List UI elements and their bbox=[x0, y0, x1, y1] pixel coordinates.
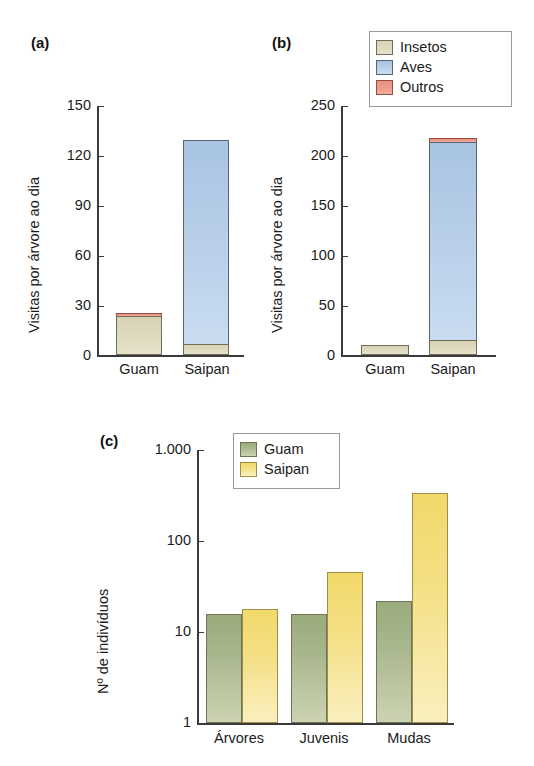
panel-a-x-axis-line bbox=[97, 355, 244, 357]
panel-a-ytick-label-60: 60 bbox=[38, 247, 91, 263]
panel-c-xtick-label-arvores: Árvores bbox=[196, 730, 282, 746]
panel-b-letter: (b) bbox=[272, 34, 291, 51]
legend-islands: Guam Saipan bbox=[233, 433, 340, 489]
panel-c-ytick-label-10: 10 bbox=[116, 623, 191, 639]
panel-a-tick-30 bbox=[98, 306, 104, 307]
legend-item-guam: Guam bbox=[240, 439, 331, 459]
panel-a-tick-120 bbox=[98, 156, 104, 157]
panel-b-ytick-label-100: 100 bbox=[280, 247, 335, 263]
legend-swatch-saipan-icon bbox=[240, 462, 257, 477]
legend-label-saipan: Saipan bbox=[264, 462, 309, 477]
panel-b-x-axis-line bbox=[341, 355, 496, 357]
legend-item-outros: Outros bbox=[376, 77, 503, 97]
panel-b-tick-50 bbox=[342, 306, 348, 307]
panel-c-bar-arvores-guam bbox=[206, 614, 242, 723]
panel-c-ytick-label-1: 1 bbox=[116, 714, 191, 730]
panel-b-bar-guam-segment-insetos bbox=[361, 345, 409, 355]
panel-a-xtick-label-saipan: Saipan bbox=[170, 361, 244, 377]
panel-b-xtick-label-guam: Guam bbox=[350, 361, 420, 377]
panel-a-ytick-label-90: 90 bbox=[38, 197, 91, 213]
legend-swatch-outros-icon bbox=[376, 80, 393, 95]
panel-b-bar-guam bbox=[361, 345, 409, 355]
panel-c: (c) Nº de indivíduos 1.000 100 10 1 Árvo… bbox=[0, 400, 534, 766]
panel-b-ytick-label-250: 250 bbox=[280, 97, 335, 113]
panel-b-bar-saipan-segment-insetos bbox=[429, 340, 477, 355]
panel-c-xtick-label-mudas: Mudas bbox=[368, 730, 450, 746]
panel-c-y-axis-line bbox=[197, 450, 199, 724]
panel-a: (a) Visitas por árvore ao dia 150 120 90… bbox=[0, 0, 250, 400]
legend-label-guam: Guam bbox=[264, 442, 304, 457]
panel-b-bar-saipan-segment-aves bbox=[429, 142, 477, 341]
panel-a-ytick-label-30: 30 bbox=[38, 297, 91, 313]
panel-b-y-axis-line bbox=[341, 106, 343, 356]
panel-c-xtick-label-juvenis: Juvenis bbox=[283, 730, 365, 746]
panel-a-tick-90 bbox=[98, 206, 104, 207]
legend-label-aves: Aves bbox=[400, 60, 432, 75]
panel-c-bar-arvores-saipan bbox=[242, 609, 278, 723]
panel-b-tick-150 bbox=[342, 206, 348, 207]
panel-a-letter: (a) bbox=[31, 34, 49, 51]
panel-b-xtick-label-saipan: Saipan bbox=[416, 361, 490, 377]
panel-c-bar-juvenis-guam bbox=[291, 614, 327, 723]
panel-c-x-axis-line bbox=[197, 723, 454, 725]
legend-item-aves: Aves bbox=[376, 57, 503, 77]
legend-item-insetos: Insetos bbox=[376, 37, 503, 57]
panel-b: (b) Visitas por árvore ao dia 250 200 15… bbox=[250, 0, 534, 400]
legend-swatch-insetos-icon bbox=[376, 40, 393, 55]
panel-b-ytick-label-50: 50 bbox=[280, 297, 335, 313]
panel-a-xtick-label-guam: Guam bbox=[104, 361, 174, 377]
panel-b-bar-saipan bbox=[429, 138, 477, 355]
panel-a-ytick-label-120: 120 bbox=[38, 147, 91, 163]
panel-a-tick-60 bbox=[98, 256, 104, 257]
panel-b-tick-200 bbox=[342, 156, 348, 157]
panel-c-bar-juvenis-saipan bbox=[327, 572, 363, 723]
panel-c-ytick-label-1000: 1.000 bbox=[116, 441, 191, 457]
panel-b-tick-100 bbox=[342, 256, 348, 257]
panel-c-ytick-label-100: 100 bbox=[116, 532, 191, 548]
legend-label-outros: Outros bbox=[400, 80, 444, 95]
panel-c-bar-mudas-guam bbox=[376, 601, 412, 723]
panel-b-ytick-label-0: 0 bbox=[280, 347, 335, 363]
panel-b-ytick-label-200: 200 bbox=[280, 147, 335, 163]
legend-label-insetos: Insetos bbox=[400, 40, 447, 55]
figure-root: (a) Visitas por árvore ao dia 150 120 90… bbox=[0, 0, 534, 766]
legend-swatch-aves-icon bbox=[376, 60, 393, 75]
panel-c-tick-100 bbox=[198, 541, 204, 542]
legend-swatch-guam-icon bbox=[240, 442, 257, 457]
panel-a-bar-saipan bbox=[183, 140, 229, 355]
panel-b-tick-250 bbox=[342, 106, 348, 107]
panel-a-ytick-label-150: 150 bbox=[38, 97, 91, 113]
panel-b-ytick-label-150: 150 bbox=[280, 197, 335, 213]
panel-c-bar-mudas-saipan bbox=[412, 493, 448, 723]
panel-c-tick-10 bbox=[198, 632, 204, 633]
panel-c-y-axis-label: Nº de indivíduos bbox=[95, 589, 111, 694]
legend-item-saipan: Saipan bbox=[240, 459, 331, 479]
panel-a-ytick-label-0: 0 bbox=[38, 347, 91, 363]
panel-a-bar-saipan-segment-aves bbox=[183, 140, 229, 345]
panel-a-y-axis-line bbox=[97, 106, 99, 356]
panel-a-bar-guam bbox=[116, 313, 162, 356]
panel-a-bar-guam-segment-insetos bbox=[116, 316, 162, 356]
panel-a-bar-saipan-segment-insetos bbox=[183, 344, 229, 355]
panel-c-tick-1000 bbox=[198, 450, 204, 451]
legend-visitors: Insetos Aves Outros bbox=[369, 31, 512, 107]
panel-a-tick-150 bbox=[98, 106, 104, 107]
